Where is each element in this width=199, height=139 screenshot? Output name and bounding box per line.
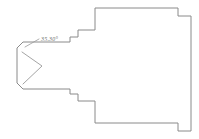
- profile-outline-path: [17, 8, 191, 131]
- angle-dimension-label: 35.30°: [40, 36, 58, 42]
- technical-drawing-canvas: 35.30°: [0, 0, 199, 139]
- angle-leader-line: [25, 39, 39, 47]
- drawing-svg: 35.30°: [0, 0, 199, 139]
- chevron-notch-detail: [22, 52, 42, 84]
